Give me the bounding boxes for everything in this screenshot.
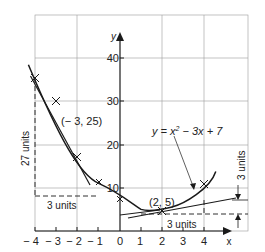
x-tick-label: 1 — [137, 235, 143, 247]
units-27-label: 27 units — [20, 131, 31, 166]
x-tick-label: 0 — [117, 235, 123, 247]
x-tick-label: 4 — [201, 235, 207, 247]
equation-pointer — [174, 136, 193, 186]
point-a-label: (− 3, 25) — [61, 115, 102, 127]
x-tick-labels: − 4 − 3 − 2 − 1 0 1 2 3 4 x — [23, 235, 231, 247]
y-tick-label: 20 — [107, 139, 119, 151]
units-3-bottom-label: 3 units — [167, 219, 196, 230]
x-tick-label: − 4 — [23, 235, 39, 247]
x-axis-arrow-icon — [223, 227, 232, 235]
y-tick-labels: 10 20 30 40 y — [107, 31, 119, 194]
arrow-down-icon — [235, 194, 241, 200]
units-3-right-label: 3 units — [236, 151, 247, 180]
x-tick-label: − 3 — [45, 235, 61, 247]
arrow-up-icon — [235, 214, 241, 220]
parabola-tangent-chart: − 4 − 3 − 2 − 1 0 1 2 3 4 x 10 20 30 40 … — [0, 0, 265, 252]
right-dimension-arrows — [232, 185, 248, 228]
tangent-line-right — [128, 198, 236, 218]
x-tick-label: − 2 — [66, 235, 82, 247]
equation-label: y = x2 − 3x + 7 — [151, 125, 223, 137]
point-b-label: (2, 5) — [149, 196, 175, 208]
x-axis-label: x — [227, 236, 232, 247]
x-tick-label: − 1 — [87, 235, 103, 247]
tangent-line-left — [31, 76, 91, 185]
y-tick-label: 30 — [107, 95, 119, 107]
y-tick-label: 40 — [107, 52, 119, 64]
y-axis-arrow-icon — [116, 32, 124, 41]
x-tick-label: 3 — [180, 235, 186, 247]
parabola-curve — [28, 65, 215, 211]
pointer-arrow-icon — [190, 183, 196, 190]
y-axis-label: y — [110, 31, 117, 42]
x-tick-label: 2 — [159, 235, 165, 247]
units-3-left-label: 3 units — [47, 200, 76, 211]
